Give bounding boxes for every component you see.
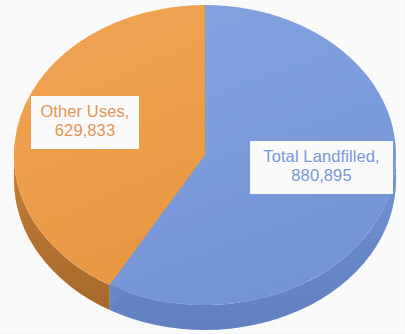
data-label-total-landfilled-value: 880,895 xyxy=(250,166,393,185)
data-label-other-uses-name: Other Uses, xyxy=(31,102,139,121)
data-label-other-uses: Other Uses, 629,833 xyxy=(31,96,139,149)
data-label-total-landfilled-name: Total Landfilled, xyxy=(250,147,393,166)
data-label-total-landfilled: Total Landfilled, 880,895 xyxy=(250,141,393,194)
data-label-other-uses-value: 629,833 xyxy=(31,121,139,140)
pie-chart-figure: Other Uses, 629,833 Total Landfilled, 88… xyxy=(0,0,405,334)
